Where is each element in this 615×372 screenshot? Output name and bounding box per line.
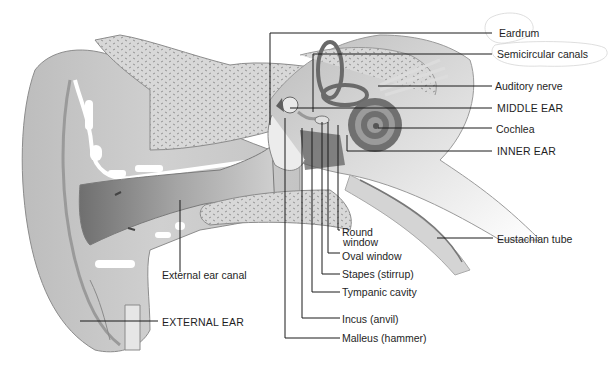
label-malleus: Malleus (hammer)	[342, 332, 427, 344]
label-oval-window: Oval window	[342, 250, 402, 262]
label-tympanic-cavity: Tympanic cavity	[342, 286, 417, 298]
label-stapes: Stapes (stirrup)	[342, 268, 414, 280]
label-inner-ear: INNER EAR	[497, 145, 556, 157]
label-external-ear: EXTERNAL EAR	[162, 316, 244, 328]
label-middle-ear: MIDDLE EAR	[497, 102, 563, 114]
label-external-ear-canal: External ear canal	[162, 269, 247, 281]
label-cochlea: Cochlea	[496, 123, 535, 135]
label-auditory-nerve: Auditory nerve	[495, 80, 563, 92]
label-incus: Incus (anvil)	[342, 313, 399, 325]
label-semicircular-canals: Semicircular canals	[497, 48, 588, 60]
label-eardrum: Eardrum	[499, 27, 539, 39]
label-round-window-line2: window	[343, 236, 378, 248]
label-eustachian-tube: Eustachian tube	[497, 233, 572, 245]
